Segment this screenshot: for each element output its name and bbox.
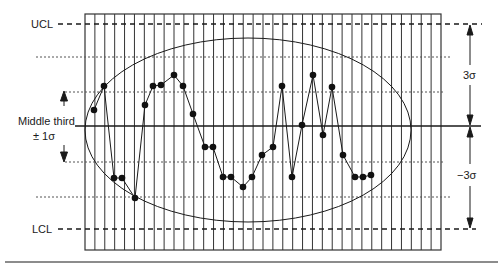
data-point	[91, 107, 98, 114]
control-chart	[0, 0, 501, 267]
data-point	[329, 84, 336, 91]
data-point	[340, 152, 347, 159]
up-arrow-icon	[467, 25, 473, 35]
data-point	[119, 175, 126, 182]
lower-sigma-label: −3σ	[457, 169, 476, 181]
data-point	[249, 174, 256, 181]
data-point	[202, 144, 209, 151]
data-point	[142, 102, 149, 109]
data-point	[368, 172, 375, 179]
data-point	[111, 175, 118, 182]
down-arrow-icon	[61, 152, 68, 162]
up-arrow-icon	[467, 127, 473, 137]
data-point	[158, 82, 165, 89]
data-point	[320, 132, 327, 139]
ucl-label: UCL	[31, 18, 53, 30]
data-point	[289, 174, 296, 181]
data-point	[310, 72, 317, 79]
vertical-grid-lines	[95, 14, 431, 250]
data-point	[240, 184, 247, 191]
data-point	[101, 83, 108, 90]
data-point	[171, 72, 178, 79]
down-arrow-icon	[467, 115, 473, 125]
data-point	[360, 174, 367, 181]
data-point	[132, 195, 139, 202]
data-point	[210, 144, 217, 151]
data-point	[180, 83, 187, 90]
data-point	[270, 144, 277, 151]
data-point	[352, 174, 359, 181]
down-arrow-icon	[467, 218, 473, 228]
middle-third-label: Middle third	[18, 115, 75, 127]
data-point	[220, 174, 227, 181]
lcl-label: LCL	[32, 223, 52, 235]
data-point	[150, 83, 157, 90]
data-point	[190, 111, 197, 118]
data-point	[228, 174, 235, 181]
data-point	[259, 152, 266, 159]
plus-minus-sigma-label: ± 1σ	[33, 130, 55, 142]
upper-sigma-label: 3σ	[463, 69, 476, 81]
data-point	[299, 122, 306, 129]
data-point	[279, 83, 286, 90]
